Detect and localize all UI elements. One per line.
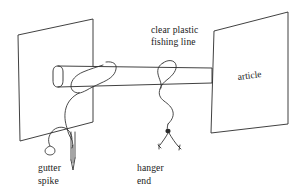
hanger-end-knot	[158, 129, 181, 150]
label-gutter-spike-line1: gutter	[38, 162, 62, 173]
diagram-canvas: clear plastic fishing line gutter spike …	[0, 0, 301, 196]
label-fishing-line-line1: clear plastic	[151, 24, 198, 35]
label-hanger-end-line2: end	[137, 175, 151, 186]
label-hanger-end-line1: hanger	[137, 162, 164, 173]
label-gutter-spike-line2: spike	[38, 175, 59, 186]
label-fishing-line-line2: fishing line	[151, 36, 196, 47]
horizontal-rod	[53, 66, 212, 87]
